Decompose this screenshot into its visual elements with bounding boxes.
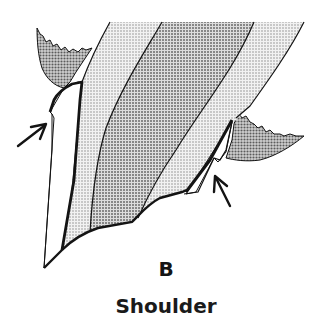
panel-letter: B	[0, 258, 324, 280]
left-shoulder-arrow-icon	[18, 124, 46, 146]
figure-caption: Shoulder	[0, 294, 324, 318]
tooth-cross-section	[0, 0, 324, 332]
right-shoulder-arrow-icon	[214, 176, 230, 206]
dental-diagram: B Shoulder	[0, 0, 324, 332]
right-gingiva	[226, 112, 304, 161]
